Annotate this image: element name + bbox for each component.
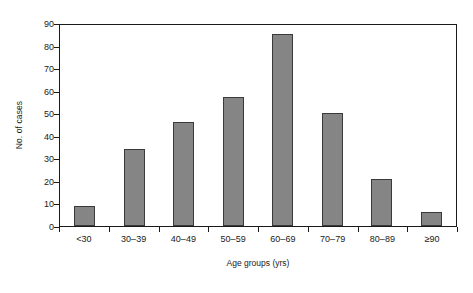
- bar-slot: [308, 25, 358, 226]
- x-axis-tick-label: <30: [59, 234, 109, 250]
- y-axis-tick-mark: [54, 159, 59, 160]
- bar-slot: [209, 25, 259, 226]
- x-axis-tick-labels: <3030–3940–4950–5960–6970–7980–89≥90: [59, 234, 457, 250]
- x-axis-tick-label: 80–89: [358, 234, 408, 250]
- bar-series: [60, 25, 456, 226]
- y-axis-tick-mark: [54, 24, 59, 25]
- bar: [421, 212, 442, 226]
- y-axis-tick-mark: [54, 182, 59, 183]
- x-axis-title: Age groups (yrs): [59, 258, 457, 268]
- x-axis-tick-label: ≥90: [407, 234, 457, 250]
- x-axis-tick-label: 70–79: [308, 234, 358, 250]
- bar: [173, 122, 194, 226]
- y-axis-tick-label: 30: [44, 154, 54, 164]
- bar-chart-figure: No. of cases 0102030405060708090 <3030–3…: [0, 0, 473, 293]
- bar: [322, 113, 343, 226]
- x-axis-tick-mark: [109, 227, 110, 232]
- plot-area: [59, 24, 457, 227]
- bar-slot: [159, 25, 209, 226]
- y-axis-tick-mark: [54, 92, 59, 93]
- x-axis-tick-mark: [358, 227, 359, 232]
- y-axis-tick-mark: [54, 114, 59, 115]
- bar-slot: [110, 25, 160, 226]
- y-axis-tick-label: 70: [44, 64, 54, 74]
- bar: [124, 149, 145, 226]
- x-axis-tick-mark: [407, 227, 408, 232]
- x-axis-tick-mark: [258, 227, 259, 232]
- bar-slot: [357, 25, 407, 226]
- y-axis-tick-label: 90: [44, 19, 54, 29]
- y-axis-tick-label: 40: [44, 132, 54, 142]
- y-axis-tick-mark: [54, 69, 59, 70]
- bar-slot: [407, 25, 457, 226]
- bar-slot: [60, 25, 110, 226]
- x-axis-tick-label: 30–39: [109, 234, 159, 250]
- y-axis-title: No. of cases: [14, 10, 28, 240]
- y-axis-tick-label: 50: [44, 109, 54, 119]
- x-axis-tick-mark: [457, 227, 458, 232]
- x-axis-tick-mark: [308, 227, 309, 232]
- bar: [74, 206, 95, 226]
- x-axis-tick-label: 40–49: [159, 234, 209, 250]
- y-axis-tick-label: 20: [44, 177, 54, 187]
- y-axis-tick-label: 60: [44, 87, 54, 97]
- y-axis-tick-label: 10: [44, 199, 54, 209]
- x-axis-tick-label: 50–59: [208, 234, 258, 250]
- bar: [223, 97, 244, 226]
- y-axis-tick-mark: [54, 227, 59, 228]
- x-axis-tick-marks: [59, 227, 457, 232]
- y-axis-tick-labels: 0102030405060708090: [28, 24, 54, 227]
- x-axis-tick-mark: [159, 227, 160, 232]
- y-axis-tick-mark: [54, 47, 59, 48]
- bar: [272, 34, 293, 226]
- y-axis-tick-mark: [54, 137, 59, 138]
- bar: [371, 179, 392, 226]
- y-axis-tick-label: 80: [44, 42, 54, 52]
- bar-slot: [258, 25, 308, 226]
- x-axis-tick-mark: [208, 227, 209, 232]
- x-axis-tick-label: 60–69: [258, 234, 308, 250]
- y-axis-tick-mark: [54, 204, 59, 205]
- x-axis-tick-mark: [59, 227, 60, 232]
